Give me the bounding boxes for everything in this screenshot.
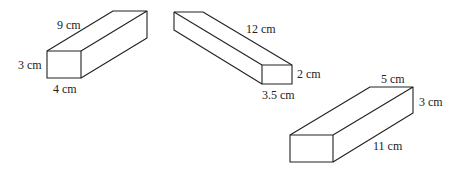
prism-a-width-label: 4 cm (53, 83, 77, 95)
prism-b-length-label: 12 cm (246, 23, 276, 35)
prism-c-height-label: 3 cm (419, 96, 443, 108)
prism-c-width-label: 5 cm (381, 73, 405, 85)
prism-c-length-label: 11 cm (373, 140, 402, 152)
prism-a-length-label: 9 cm (57, 19, 81, 31)
prism-b-height-label: 2 cm (297, 68, 321, 80)
prism-b-width-label: 3.5 cm (262, 89, 295, 101)
prism-a-height-label: 3 cm (18, 59, 42, 71)
